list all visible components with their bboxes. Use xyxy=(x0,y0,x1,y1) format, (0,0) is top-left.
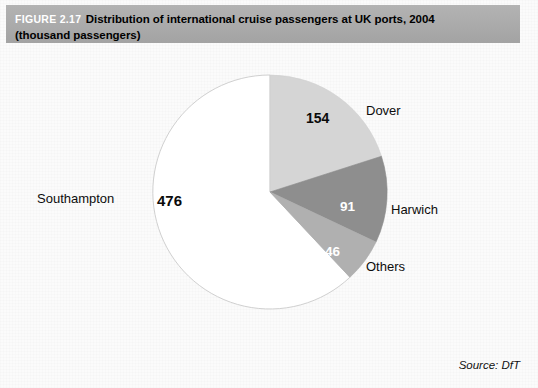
figure-subtitle: (thousand passengers) xyxy=(15,29,514,41)
pie-value-southampton: 476 xyxy=(157,193,182,208)
source-note: Source: DfT xyxy=(459,359,520,371)
figure-caption-text: FIGURE 2.17 Distribution of internationa… xyxy=(15,9,514,41)
pie-label-others: Others xyxy=(366,260,405,273)
figure-container: FIGURE 2.17 Distribution of internationa… xyxy=(0,0,538,388)
pie-label-harwich: Harwich xyxy=(391,203,438,216)
figure-number-tag: FIGURE 2.17 xyxy=(15,13,81,25)
pie-value-dover: 154 xyxy=(306,111,329,125)
pie-label-southampton: Southampton xyxy=(37,192,114,205)
pie-value-harwich: 91 xyxy=(340,200,355,214)
figure-caption-band: FIGURE 2.17 Distribution of internationa… xyxy=(6,5,520,43)
pie-chart: 476 154 91 46 Southampton Dover Harwich … xyxy=(0,44,538,344)
pie-value-others: 46 xyxy=(325,245,340,259)
figure-title: Distribution of international cruise pas… xyxy=(86,13,435,25)
pie-label-dover: Dover xyxy=(366,104,401,117)
